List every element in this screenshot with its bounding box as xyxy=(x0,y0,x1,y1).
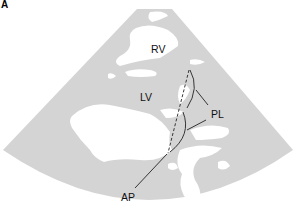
label-pl: PL xyxy=(211,108,224,120)
echo-sector-diagram: RV LV PL AP xyxy=(0,0,296,215)
label-rv: RV xyxy=(151,43,165,55)
label-ap: AP xyxy=(121,191,135,203)
label-lv: LV xyxy=(140,91,152,103)
